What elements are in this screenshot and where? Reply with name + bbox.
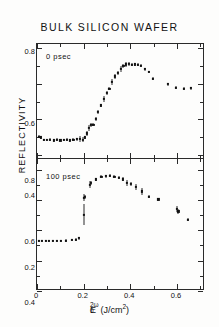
y-tick-label-top-0: 0.8 <box>25 48 35 56</box>
data-point <box>48 240 50 242</box>
data-point <box>82 139 84 141</box>
data-point <box>100 104 102 106</box>
y-tick-right-bottom-0 <box>198 170 203 171</box>
y-tick-label-top-2: 0.4 <box>25 192 35 200</box>
data-point <box>147 71 149 73</box>
data-point <box>119 68 121 70</box>
y-minor-tick-right-top-1 <box>200 102 203 103</box>
data-point <box>41 240 43 242</box>
x-tick-bottom-1 <box>84 284 85 289</box>
y-tick-bottom-2: 0.4 <box>37 230 42 231</box>
x-minor-tick-bottom-3 <box>200 286 201 289</box>
data-point <box>59 139 61 141</box>
y-tick-right-bottom-3 <box>198 261 203 262</box>
data-point <box>53 139 55 141</box>
data-point <box>126 182 128 184</box>
y-tick-right-top-1 <box>198 84 203 85</box>
y-tick-right-top-0 <box>198 48 203 49</box>
data-point <box>111 81 113 83</box>
x-tick-top-top-0 <box>37 44 38 49</box>
y-tick-top-2: 0.4 <box>37 119 42 120</box>
y-minor-tick-right-bottom-3 <box>200 276 203 277</box>
y-tick-label-top-1: 0.6 <box>25 120 35 128</box>
data-point <box>105 175 107 177</box>
data-point <box>122 178 124 180</box>
data-point <box>100 176 102 178</box>
x-tick-bottom-3 <box>177 284 178 289</box>
data-point <box>56 240 58 242</box>
y-minor-tick-right-top-2 <box>200 137 203 138</box>
x-minor-tick-top-top-2 <box>154 44 155 47</box>
data-point <box>78 237 80 239</box>
y-tick-right-bottom-1 <box>198 200 203 201</box>
y-minor-tick-top-0 <box>37 66 40 67</box>
x-minor-tick-top-bottom-0 <box>60 159 61 162</box>
x-axis-label: E2ω0 (J/cm2) <box>0 303 219 315</box>
panel-label-100-psec: 100 psec <box>46 172 80 181</box>
y-minor-tick-bottom-0 <box>37 185 40 186</box>
data-point <box>56 139 58 141</box>
y-minor-tick-top-1 <box>37 102 40 103</box>
x-tick-top-top-2 <box>130 44 131 49</box>
x-tick-top-bottom-3 <box>177 159 178 164</box>
data-point <box>76 138 78 140</box>
y-tick-bottom-1: 0.6 <box>37 200 42 201</box>
x-minor-tick-top-top-3 <box>200 44 201 47</box>
data-point <box>84 196 86 198</box>
x-tick-top-bottom-1 <box>84 159 85 164</box>
x-tick-bottom-0 <box>37 284 38 289</box>
y-minor-tick-right-top-0 <box>200 66 203 67</box>
data-point <box>182 88 184 90</box>
y-minor-tick-right-bottom-1 <box>200 215 203 216</box>
data-point <box>190 87 192 89</box>
panel-100-psec: 100 psec 0.80.60.40.20 <box>36 158 204 290</box>
data-point <box>108 87 110 89</box>
x-tick-label-3: 0.6 <box>171 292 181 300</box>
x-axis-units-close: ) <box>126 305 129 315</box>
data-point <box>49 139 51 141</box>
figure-title: BULK SILICON WAFER <box>0 21 219 33</box>
y-minor-tick-bottom-2 <box>37 245 40 246</box>
data-point <box>69 139 71 141</box>
data-point <box>130 183 132 185</box>
data-point <box>137 64 139 66</box>
data-point <box>46 139 48 141</box>
data-point <box>38 240 40 242</box>
data-point <box>63 139 65 141</box>
data-point <box>117 72 119 74</box>
data-point <box>177 210 179 212</box>
data-point <box>72 139 74 141</box>
x-axis-label-sub: 0 <box>90 307 94 314</box>
x-minor-tick-bottom-1 <box>107 286 108 289</box>
data-point <box>92 123 94 125</box>
figure-canvas: BULK SILICON WAFER REFLECTIVITY 0 psec 0… <box>0 0 219 327</box>
x-tick-top-top-1 <box>84 44 85 49</box>
y-tick-right-top-2 <box>198 119 203 120</box>
panel-label-0-psec: 0 psec <box>46 52 71 61</box>
data-point <box>95 118 97 120</box>
data-point <box>118 176 120 178</box>
y-minor-tick-bottom-3 <box>37 276 40 277</box>
x-minor-tick-top-top-0 <box>60 44 61 47</box>
x-minor-tick-bottom-0 <box>60 286 61 289</box>
data-point <box>147 196 149 198</box>
x-tick-top-bottom-2 <box>130 159 131 164</box>
x-tick-label-2: 0.4 <box>124 292 134 300</box>
data-point <box>140 65 142 67</box>
x-tick-top-top-3 <box>177 44 178 49</box>
x-tick-top-bottom-0 <box>37 159 38 164</box>
data-point <box>187 219 189 221</box>
y-minor-tick-bottom-1 <box>37 215 40 216</box>
x-tick-label-1: 0.2 <box>77 292 87 300</box>
data-point <box>133 63 135 65</box>
data-point <box>45 240 47 242</box>
data-point <box>113 176 115 178</box>
data-point <box>90 182 92 184</box>
x-minor-tick-top-bottom-2 <box>154 159 155 162</box>
data-point <box>52 240 54 242</box>
data-point <box>175 87 177 89</box>
data-point <box>70 239 72 241</box>
x-minor-tick-top-bottom-3 <box>200 159 201 162</box>
data-point <box>109 175 111 177</box>
data-point <box>152 77 154 79</box>
